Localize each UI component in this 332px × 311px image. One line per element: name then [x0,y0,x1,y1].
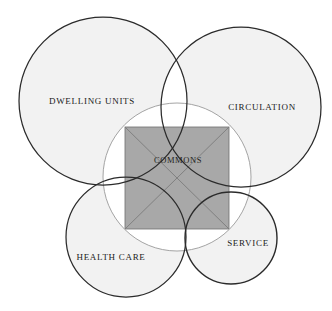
venn-diagram-canvas: DWELLING UNITS CIRCULATION HEALTH CARE S… [0,0,332,311]
commons-square-group [125,127,229,229]
venn-diagram-svg: DWELLING UNITS CIRCULATION HEALTH CARE S… [0,0,332,311]
label-service: SERVICE [227,238,269,248]
label-dwelling-units: DWELLING UNITS [49,96,135,106]
label-circulation: CIRCULATION [228,102,296,112]
label-commons: COMMONS [154,155,202,165]
label-health-care: HEALTH CARE [76,252,145,262]
